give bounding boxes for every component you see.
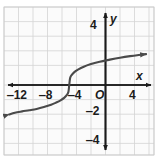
graph-figure: ‒12 ‒8 ‒4 4 O 4 ‒2 ‒4 y x xyxy=(0,0,158,165)
y-tick-label--4: ‒4 xyxy=(86,134,99,146)
x-tick-label--4: ‒4 xyxy=(68,89,81,101)
x-axis-label: x xyxy=(136,70,143,82)
coordinate-plane xyxy=(0,0,158,165)
x-tick-label--8: ‒8 xyxy=(39,89,52,101)
grid-background xyxy=(4,7,154,155)
y-axis-label: y xyxy=(110,13,117,25)
y-tick-label--2: ‒2 xyxy=(86,105,99,117)
origin-label: O xyxy=(95,89,104,101)
x-tick-label-4: 4 xyxy=(129,89,136,101)
y-tick-label-4: 4 xyxy=(90,19,97,31)
x-tick-label--12: ‒12 xyxy=(7,89,27,101)
